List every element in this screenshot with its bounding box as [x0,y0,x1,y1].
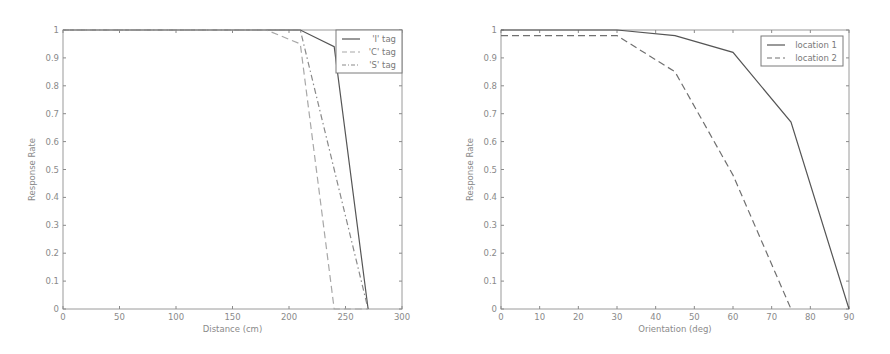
y-tick-label: 0.9 [483,53,497,63]
x-tick-label: 250 [337,312,353,322]
y-tick-label: 0.6 [483,137,497,147]
x-tick-label: 90 [844,312,855,322]
y-tick-label: 0.5 [45,165,59,175]
y-tick-label: 0 [492,304,497,314]
y-tick-label: 0.2 [483,248,497,258]
distance-chart-canvas: 05010015020025030000.10.20.30.40.50.60.7… [0,0,445,354]
plot-area [501,30,849,309]
y-axis-label: Response Rate [27,138,37,201]
legend-label: 'C' tag [369,47,396,57]
x-tick-label: 150 [224,312,240,322]
y-tick-label: 0.3 [483,220,497,230]
y-tick-label: 0.7 [483,109,497,119]
x-tick-label: 0 [60,312,65,322]
x-tick-label: 10 [534,312,545,322]
legend-label: location 2 [795,53,837,63]
y-tick-label: 0.7 [45,109,59,119]
y-tick-label: 0 [54,304,59,314]
y-tick-label: 0.5 [483,165,497,175]
y-tick-label: 1 [54,25,59,35]
x-axis-label: Orientation (deg) [638,324,711,334]
y-tick-label: 0.8 [483,81,497,91]
x-tick-label: 50 [689,312,700,322]
y-tick-label: 1 [492,25,497,35]
x-tick-label: 300 [394,312,410,322]
orientation-chart-canvas: 010203040506070809000.10.20.30.40.50.60.… [445,0,890,354]
y-tick-label: 0.4 [45,192,59,202]
x-tick-label: 70 [766,312,777,322]
y-tick-label: 0.9 [45,53,59,63]
series-line-3 [63,30,368,309]
x-tick-label: 60 [728,312,739,322]
legend-label: 'I' tag [372,34,396,44]
y-tick-label: 0.6 [45,137,59,147]
x-tick-label: 40 [650,312,661,322]
legend-label: location 1 [795,40,837,50]
x-tick-label: 200 [281,312,297,322]
legend: location 1location 2 [761,36,843,66]
series-line-2 [63,30,368,309]
y-axis-label: Response Rate [465,138,475,201]
x-axis-label: Distance (cm) [203,324,262,334]
y-tick-label: 0.2 [45,248,59,258]
y-tick-label: 0.8 [45,81,59,91]
distance-chart: 05010015020025030000.10.20.30.40.50.60.7… [0,0,445,354]
legend-label: 'S' tag [369,60,396,70]
x-tick-label: 80 [805,312,816,322]
series-line-1 [63,30,368,309]
x-tick-label: 30 [612,312,623,322]
series-line-1 [501,30,849,309]
legend: 'I' tag'C' tag'S' tag [336,30,402,73]
orientation-chart: 010203040506070809000.10.20.30.40.50.60.… [445,0,890,354]
x-tick-label: 50 [114,312,125,322]
x-tick-label: 100 [168,312,184,322]
y-tick-label: 0.1 [45,276,59,286]
y-tick-label: 0.3 [45,220,59,230]
x-tick-label: 0 [498,312,503,322]
x-tick-label: 20 [573,312,584,322]
y-tick-label: 0.4 [483,192,497,202]
series-line-2 [501,36,791,309]
y-tick-label: 0.1 [483,276,497,286]
